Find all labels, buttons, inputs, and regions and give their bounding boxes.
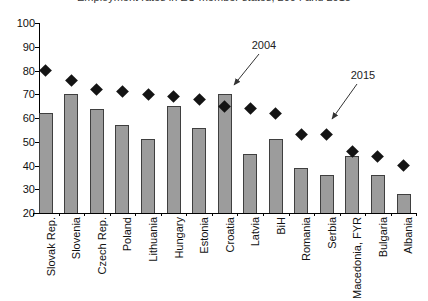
x-category-label: Hungary: [173, 217, 185, 259]
x-tick-3: [110, 213, 111, 216]
x-tick-11: [314, 213, 315, 216]
x-category-label: Lithuania: [147, 217, 159, 262]
diamond-Slovak Rep.: [39, 64, 52, 77]
bar-Hungary: [167, 106, 181, 213]
bar-BiH: [269, 139, 283, 213]
x-tick-9: [263, 213, 264, 216]
y-tick-20: [35, 213, 39, 214]
x-category-label: Slovenia: [70, 217, 82, 259]
x-tick-7: [212, 213, 213, 216]
x-category-label: BiH: [275, 217, 287, 235]
diamond-Latvia: [244, 102, 257, 115]
x-tick-4: [135, 213, 136, 216]
annotation-label-2015: 2015: [343, 69, 383, 81]
x-tick-10: [289, 213, 290, 216]
x-category-label: Bulgaria: [377, 217, 389, 257]
x-category-label: Macedonia, FYR: [351, 217, 363, 299]
chart-figure: Employment rates in EU member states, 20…: [0, 0, 428, 301]
bar-Poland: [115, 125, 129, 213]
x-category-label: Latvia: [249, 217, 261, 246]
x-tick-13: [365, 213, 366, 216]
x-tick-14: [391, 213, 392, 216]
arrow-2004: [234, 54, 259, 85]
bar-Bulgaria: [371, 175, 385, 213]
y-tick-label-60: 60: [6, 112, 35, 124]
diamond-Romania: [295, 128, 308, 141]
bar-Estonia: [192, 128, 206, 214]
bar-Czech Rep.: [90, 109, 104, 214]
bar-Serbia: [320, 175, 334, 213]
x-tick-5: [161, 213, 162, 216]
x-tick-0: [33, 213, 34, 216]
diamond-Estonia: [193, 93, 206, 106]
x-tick-6: [186, 213, 187, 216]
bar-Slovak Rep.: [39, 113, 53, 213]
x-axis-line: [33, 213, 417, 214]
y-tick-label-20: 20: [6, 207, 35, 219]
y-tick-100: [35, 23, 39, 24]
x-category-label: Poland: [121, 217, 133, 251]
x-category-label: Czech Rep.: [96, 217, 108, 274]
diamond-Hungary: [167, 90, 180, 103]
y-tick-label-90: 90: [6, 41, 35, 53]
diamond-Slovenia: [65, 74, 78, 87]
bar-Latvia: [243, 154, 257, 213]
y-tick-label-50: 50: [6, 136, 35, 148]
x-category-label: Albania: [402, 217, 414, 254]
y-tick-90: [35, 47, 39, 48]
bar-Macedonia, FYR: [345, 156, 359, 213]
bar-Slovenia: [64, 94, 78, 213]
y-tick-label-100: 100: [6, 17, 35, 29]
x-category-label: Slovak Rep.: [45, 217, 57, 276]
x-category-label: Serbia: [326, 217, 338, 249]
x-tick-8: [237, 213, 238, 216]
x-tick-1: [59, 213, 60, 216]
diamond-Lithuania: [142, 88, 155, 101]
chart-title: Employment rates in EU member states, 20…: [0, 0, 428, 3]
y-tick-label-80: 80: [6, 65, 35, 77]
y-tick-label-70: 70: [6, 88, 35, 100]
x-tick-2: [84, 213, 85, 216]
diamond-Czech Rep.: [91, 83, 104, 96]
y-tick-label-40: 40: [6, 160, 35, 172]
bar-Romania: [294, 168, 308, 213]
diamond-Albania: [397, 159, 410, 172]
diamond-Serbia: [320, 128, 333, 141]
y-tick-label-30: 30: [6, 183, 35, 195]
x-tick-15: [416, 213, 417, 216]
diamond-Poland: [116, 86, 129, 99]
x-tick-12: [340, 213, 341, 216]
annotation-label-2004: 2004: [244, 39, 284, 51]
bar-Lithuania: [141, 139, 155, 213]
arrow-2015: [332, 84, 357, 119]
bar-Albania: [397, 194, 411, 213]
x-category-label: Croatia: [224, 217, 236, 252]
x-category-label: Estonia: [198, 217, 210, 254]
diamond-BiH: [269, 107, 282, 120]
x-category-label: Romania: [300, 217, 312, 261]
diamond-Bulgaria: [372, 150, 385, 163]
y-tick-70: [35, 94, 39, 95]
